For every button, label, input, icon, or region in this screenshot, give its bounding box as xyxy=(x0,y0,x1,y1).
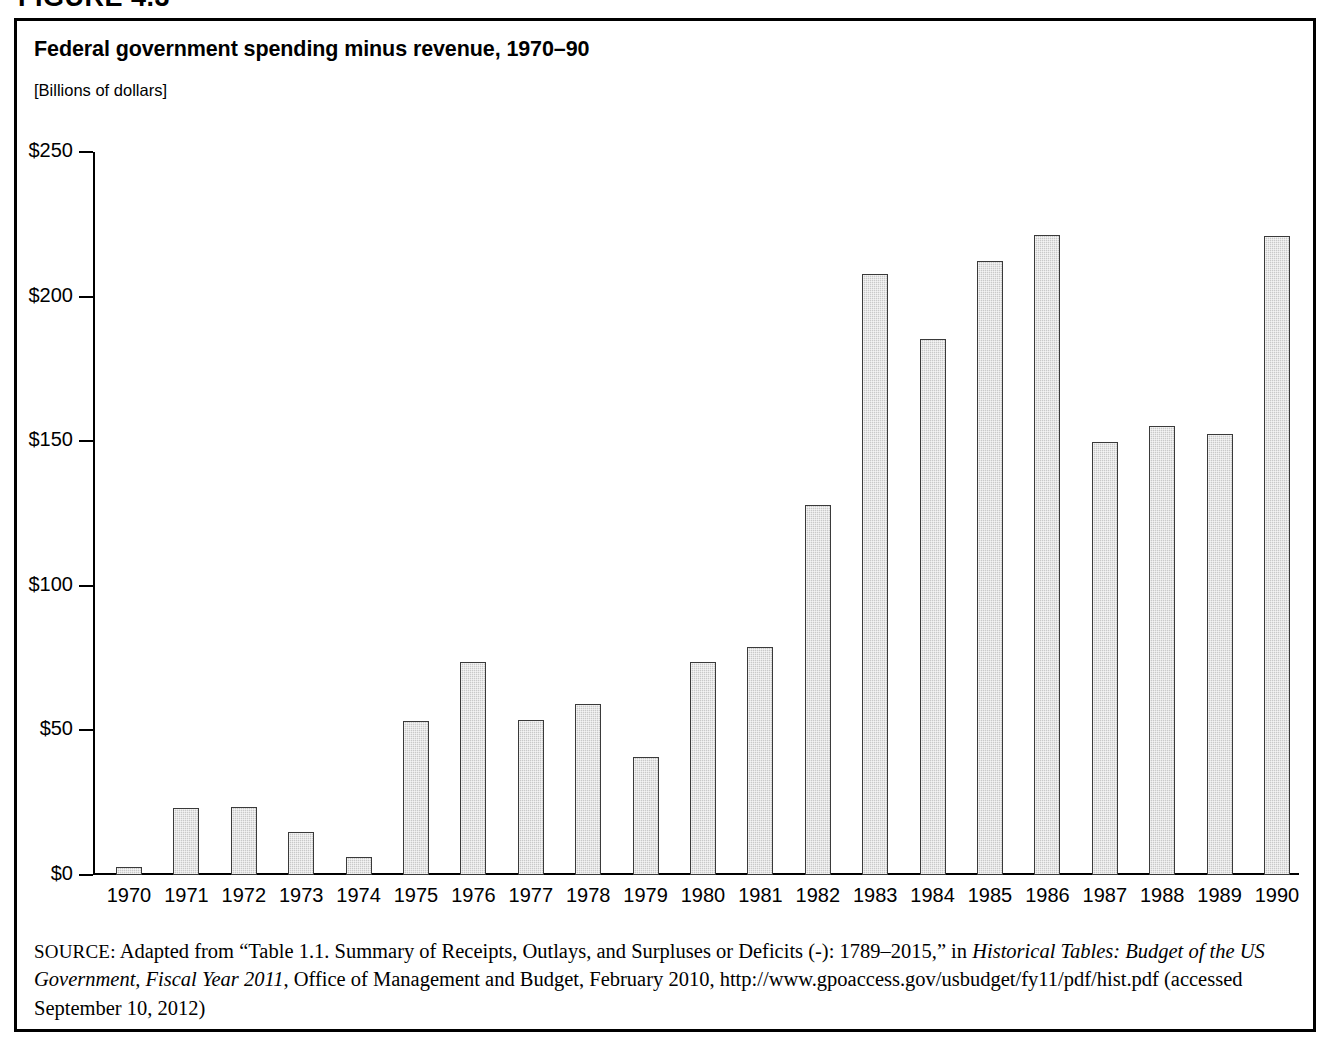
x-axis-label-1990: 1990 xyxy=(1241,884,1313,907)
y-axis-tick-label: $50 xyxy=(40,717,73,740)
bar-1976 xyxy=(460,662,486,875)
bar-1986 xyxy=(1034,235,1060,875)
bar-1984 xyxy=(920,339,946,875)
y-axis-tick: $100 xyxy=(79,585,93,587)
plot-area: $0$50$100$150$200$250 197019711972197319… xyxy=(93,152,1299,875)
y-axis-tick: $0 xyxy=(79,874,93,876)
y-axis-tick-label: $250 xyxy=(29,139,74,162)
bar-1979 xyxy=(633,757,659,875)
bar-1972 xyxy=(231,807,257,875)
bar-1988 xyxy=(1149,426,1175,875)
y-axis-tick-label: $200 xyxy=(29,284,74,307)
bar-1977 xyxy=(518,720,544,875)
bar-1987 xyxy=(1092,442,1118,875)
source-text-part1: Adapted from “Table 1.1. Summary of Rece… xyxy=(116,940,973,962)
figure-frame: Federal government spending minus revenu… xyxy=(14,18,1316,1032)
chart-units-label: [Billions of dollars] xyxy=(34,81,167,100)
figure-number-label: FIGURE 4.3 xyxy=(18,0,170,13)
y-axis-tick: $150 xyxy=(79,440,93,442)
bar-1985 xyxy=(977,261,1003,875)
y-axis-tick: $250 xyxy=(79,151,93,153)
y-axis-tick: $200 xyxy=(79,296,93,298)
bar-1982 xyxy=(805,505,831,875)
bar-1971 xyxy=(173,808,199,875)
source-note: SOURCE: Adapted from “Table 1.1. Summary… xyxy=(34,937,1299,1022)
figure-page: FIGURE 4.3 Federal government spending m… xyxy=(0,0,1337,1050)
bar-1975 xyxy=(403,721,429,875)
bar-1980 xyxy=(690,662,716,875)
y-axis-tick-label: $150 xyxy=(29,428,74,451)
bar-1978 xyxy=(575,704,601,875)
y-axis-tick-label: $0 xyxy=(51,862,73,885)
bar-1973 xyxy=(288,832,314,875)
chart-title: Federal government spending minus revenu… xyxy=(34,37,589,62)
bar-1974 xyxy=(346,857,372,875)
bar-1981 xyxy=(747,647,773,875)
source-prefix: SOURCE: xyxy=(34,941,116,962)
y-axis-tick-label: $100 xyxy=(29,573,74,596)
bar-1990 xyxy=(1264,236,1290,875)
bar-1989 xyxy=(1207,434,1233,875)
bar-1970 xyxy=(116,867,142,875)
bar-series xyxy=(93,152,1299,875)
bar-1983 xyxy=(862,274,888,875)
y-axis-tick: $50 xyxy=(79,729,93,731)
